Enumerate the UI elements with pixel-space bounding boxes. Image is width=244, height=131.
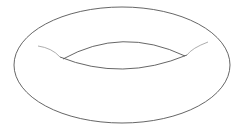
torus-diagram [0, 0, 244, 131]
torus-right-shading-curve [187, 42, 208, 55]
torus-left-shading-curve [38, 46, 60, 57]
torus-hole-lower-arc [60, 55, 187, 69]
torus-outer-outline [14, 7, 230, 123]
torus-hole-upper-arc [63, 42, 185, 59]
torus-drawing [0, 0, 244, 131]
